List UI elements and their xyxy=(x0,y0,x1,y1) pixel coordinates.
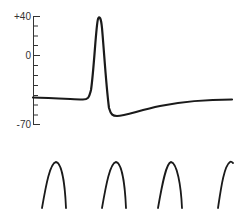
spike-4-partial xyxy=(218,162,233,208)
action-potential-trace xyxy=(33,17,232,116)
spike-1 xyxy=(42,162,66,208)
y-tick-label-minus70: -70 xyxy=(17,119,32,130)
action-potential-chart: +40 0 -70 xyxy=(0,0,249,215)
spike-train xyxy=(42,162,233,208)
y-tick-label-plus40: +40 xyxy=(14,11,31,22)
spike-3 xyxy=(158,162,182,208)
spike-2 xyxy=(102,162,126,208)
y-axis xyxy=(34,16,41,125)
y-tick-label-zero: 0 xyxy=(25,50,31,61)
